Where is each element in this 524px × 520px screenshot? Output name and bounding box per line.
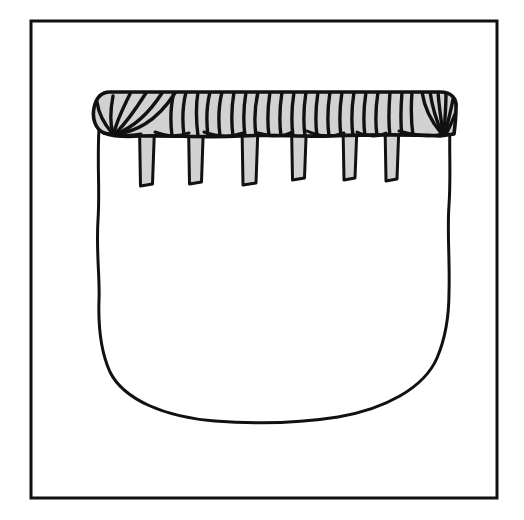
rim-band-group: [93, 92, 456, 137]
bag-drawing-svg: [0, 0, 524, 520]
figure-canvas: [0, 0, 524, 520]
